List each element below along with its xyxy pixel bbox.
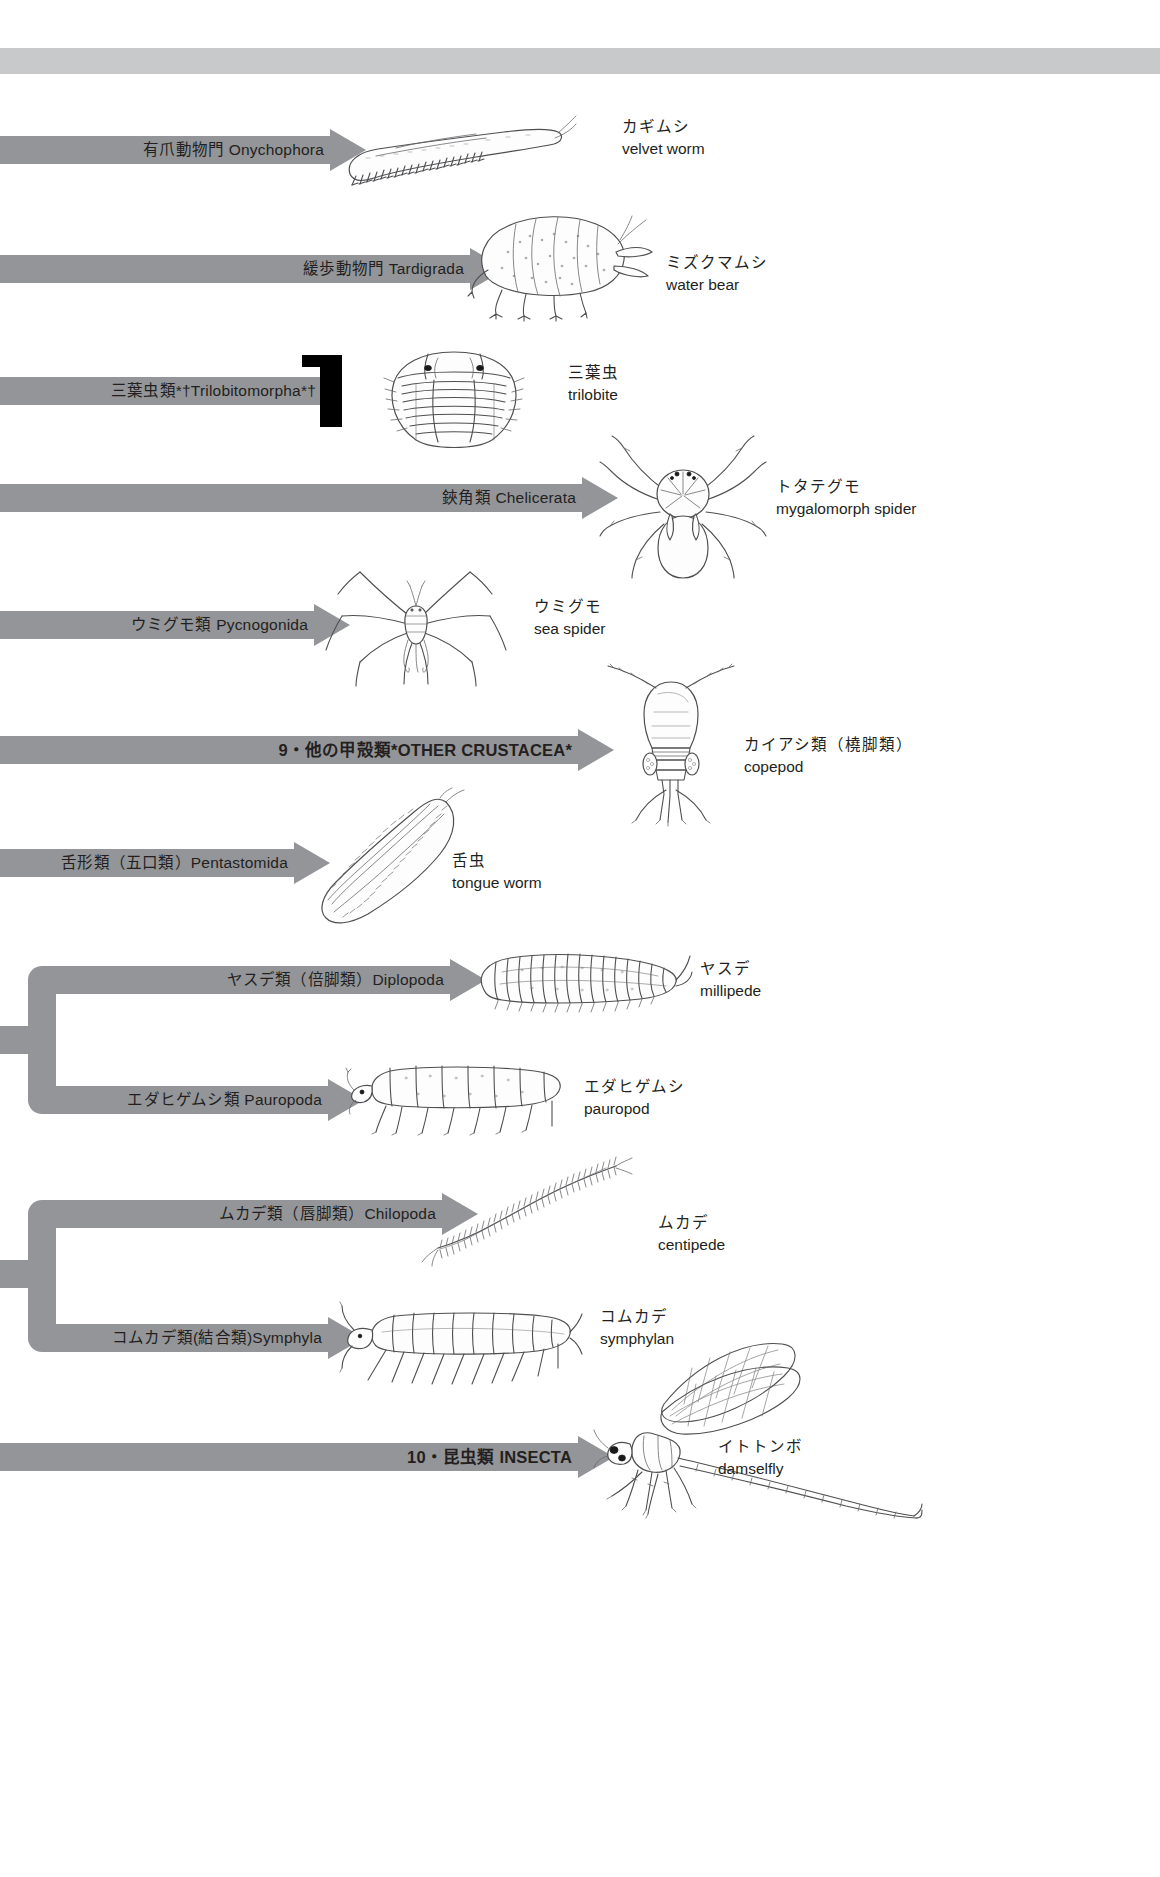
caption-en: millipede	[700, 980, 761, 1002]
taxon-bar-tardigrada[interactable]: 緩歩動物門 Tardigrada	[0, 255, 470, 283]
illustration-mygalomorph-spider	[598, 432, 768, 582]
taxon-bar-label: 有爪動物門 Onychophora	[143, 142, 330, 158]
taxon-bar-symphyla[interactable]: コムカデ類(結合類)Symphyla	[60, 1324, 328, 1352]
taxon-bar-onychophora[interactable]: 有爪動物門 Onychophora	[0, 136, 330, 164]
arrowhead-icon	[470, 248, 506, 290]
caption-water-bear: ミズクマムシ water bear	[666, 252, 768, 296]
caption-jp: ウミグモ	[534, 596, 606, 618]
caption-en: centipede	[658, 1234, 725, 1256]
illustration-copepod	[596, 664, 746, 824]
caption-en: pauropod	[584, 1098, 685, 1120]
taxon-bar-pauropoda[interactable]: エダヒゲムシ類 Pauropoda	[60, 1086, 328, 1114]
illustration-damselfly	[592, 1338, 922, 1518]
caption-en: damselfly	[718, 1458, 803, 1480]
taxon-bar-chilopoda[interactable]: ムカデ類（唇脚類）Chilopoda	[42, 1200, 442, 1228]
caption-velvet-worm: カギムシ velvet worm	[622, 116, 705, 160]
caption-jp: イトトンボ	[718, 1436, 803, 1458]
arrowhead-icon	[314, 604, 350, 646]
caption-damselfly: イトトンボ damselfly	[718, 1436, 803, 1480]
taxon-bar-label: ウミグモ類 Pycnogonida	[131, 617, 314, 633]
arrowhead-icon	[294, 842, 330, 884]
taxon-bar-insecta[interactable]: 10・昆虫類 INSECTA	[0, 1443, 578, 1471]
taxon-bar-trilobitomorpha[interactable]: 三葉虫類*†Trilobitomorpha*†	[0, 377, 322, 405]
taxon-bar-label: ムカデ類（唇脚類）Chilopoda	[219, 1206, 442, 1222]
caption-en: tongue worm	[452, 872, 542, 894]
caption-sea-spider: ウミグモ sea spider	[534, 596, 606, 640]
illustration-millipede	[462, 942, 692, 1022]
arrowhead-icon	[442, 1193, 478, 1235]
taxon-bar-label: 9・他の甲殻類*OTHER CRUSTACEA*	[278, 742, 578, 759]
illustration-tongue-worm	[310, 788, 470, 928]
caption-jp: トタテグモ	[776, 476, 916, 498]
caption-en: water bear	[666, 274, 768, 296]
caption-jp: コムカデ	[600, 1306, 674, 1328]
arrowhead-icon	[578, 1436, 614, 1478]
caption-tongue-worm: 舌虫 tongue worm	[452, 850, 542, 894]
taxon-bar-label: 舌形類（五口類）Pentastomida	[61, 855, 294, 871]
illustration-velvet-worm	[336, 112, 576, 197]
caption-millipede: ヤスデ millipede	[700, 958, 761, 1002]
taxon-bar-pentastomida[interactable]: 舌形類（五口類）Pentastomida	[0, 849, 294, 877]
caption-jp: ムカデ	[658, 1212, 725, 1234]
taxon-bar-other-crustacea[interactable]: 9・他の甲殻類*OTHER CRUSTACEA*	[0, 736, 578, 764]
taxon-bar-label: 三葉虫類*†Trilobitomorpha*†	[111, 383, 322, 399]
arrowhead-icon	[450, 959, 486, 1001]
arrowhead-icon	[328, 1079, 364, 1121]
taxon-bar-diplopoda[interactable]: ヤスデ類（倍脚類）Diplopoda	[42, 966, 450, 994]
taxon-bar-label: 鋏角類 Chelicerata	[442, 490, 582, 506]
arrowhead-icon	[578, 729, 614, 771]
caption-pauropod: エダヒゲムシ pauropod	[584, 1076, 685, 1120]
caption-en: mygalomorph spider	[776, 498, 916, 520]
caption-en: velvet worm	[622, 138, 705, 160]
caption-en: symphylan	[600, 1328, 674, 1350]
extinct-marker-bracket-top	[302, 355, 342, 367]
arrowhead-icon	[330, 129, 366, 171]
taxon-bar-label: ヤスデ類（倍脚類）Diplopoda	[227, 972, 450, 988]
illustration-trilobite	[358, 348, 558, 453]
caption-copepod: カイアシ類（橈脚類） copepod	[744, 734, 913, 778]
taxon-bar-label: コムカデ類(結合類)Symphyla	[112, 1330, 328, 1346]
caption-jp: 舌虫	[452, 850, 542, 872]
caption-jp: ミズクマムシ	[666, 252, 768, 274]
caption-mygalomorph-spider: トタテグモ mygalomorph spider	[776, 476, 916, 520]
caption-jp: エダヒゲムシ	[584, 1076, 685, 1098]
caption-jp: 三葉虫	[568, 362, 619, 384]
caption-centipede: ムカデ centipede	[658, 1212, 725, 1256]
caption-symphylan: コムカデ symphylan	[600, 1306, 674, 1350]
taxon-bar-label: エダヒゲムシ類 Pauropoda	[127, 1092, 328, 1108]
taxon-bar-label: 緩歩動物門 Tardigrada	[303, 261, 470, 277]
caption-en: sea spider	[534, 618, 606, 640]
taxon-bar-label: 10・昆虫類 INSECTA	[407, 1449, 578, 1466]
caption-jp: カギムシ	[622, 116, 705, 138]
figure-canvas: 有爪動物門 Onychophora カギムシ velvet worm 緩歩動物	[0, 0, 1160, 1877]
caption-en: trilobite	[568, 384, 619, 406]
top-banner	[0, 48, 1160, 74]
caption-en: copepod	[744, 756, 913, 778]
taxon-bar-chelicerata[interactable]: 鋏角類 Chelicerata	[0, 484, 582, 512]
arrowhead-icon	[328, 1317, 364, 1359]
caption-trilobite: 三葉虫 trilobite	[568, 362, 619, 406]
taxon-bar-pycnogonida[interactable]: ウミグモ類 Pycnogonida	[0, 611, 314, 639]
caption-jp: カイアシ類（橈脚類）	[744, 734, 913, 756]
arrowhead-icon	[582, 477, 618, 519]
caption-jp: ヤスデ	[700, 958, 761, 980]
